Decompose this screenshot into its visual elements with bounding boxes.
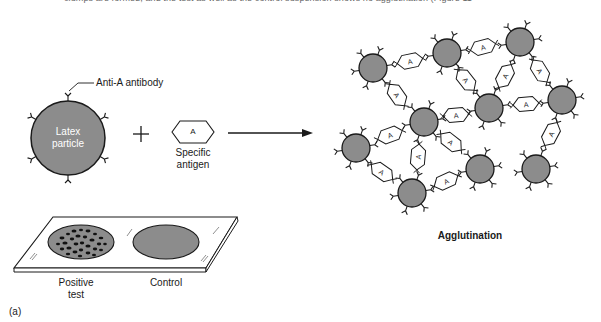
agglutination-lattice <box>334 20 584 214</box>
panel-label: (a) <box>9 306 21 318</box>
positive-label-line2: test <box>46 289 106 301</box>
control-well <box>133 225 199 259</box>
agglutination-title: Agglutination <box>420 230 520 242</box>
antigen-label-line1: Specific <box>163 147 223 159</box>
antigen-symbol: A <box>183 126 203 138</box>
reaction-arrow-icon <box>228 129 313 137</box>
control-label: Control <box>131 277 201 289</box>
antibody-label: Anti-A antibody <box>96 77 163 89</box>
positive-test-well <box>48 225 114 259</box>
positive-test-label: Positive test <box>46 277 106 301</box>
antigen-label: Specific antigen <box>163 147 223 171</box>
agglutination-diagram: A <box>0 0 601 322</box>
particle-label-line1: Latex <box>38 126 98 138</box>
particle-label: Latex particle <box>38 126 98 150</box>
antigen-label-line2: antigen <box>163 159 223 171</box>
glass-slide <box>14 217 238 272</box>
plus-icon <box>133 126 149 142</box>
particle-label-line2: particle <box>38 138 98 150</box>
antibody-leader-line <box>69 83 94 91</box>
positive-label-line1: Positive <box>46 277 106 289</box>
